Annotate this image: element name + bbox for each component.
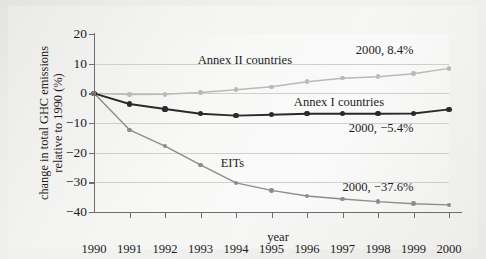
series-label: EITs: [221, 157, 245, 170]
x-tick: [414, 212, 415, 218]
plot-area: Annex II countriesAnnex I countriesEITs …: [94, 34, 449, 212]
series-label: Annex I countries: [294, 96, 384, 109]
data-point: [340, 197, 345, 202]
data-point: [447, 66, 452, 71]
value-annotation: 2000, −37.6%: [342, 181, 413, 194]
y-tick-label: −40: [66, 205, 87, 219]
x-tick: [343, 212, 344, 218]
y-tick-label: −20: [66, 146, 87, 160]
y-tick-label: −30: [66, 176, 87, 190]
x-tick: [201, 212, 202, 218]
x-tick: [130, 212, 131, 218]
x-tick: [307, 212, 308, 218]
x-tick: [378, 212, 379, 218]
x-tick: [449, 212, 450, 218]
data-point: [269, 85, 274, 90]
data-point: [376, 199, 381, 204]
x-axis-line: [94, 212, 462, 213]
series-line: [94, 68, 449, 94]
y-tick-label: 20: [74, 27, 88, 41]
data-point: [411, 71, 416, 76]
data-point: [162, 106, 167, 111]
data-point: [304, 111, 309, 116]
data-point: [127, 101, 132, 106]
x-tick: [165, 212, 166, 218]
data-point: [127, 92, 132, 97]
x-axis-title: year: [94, 230, 462, 245]
data-point: [375, 111, 380, 116]
data-point: [447, 203, 452, 208]
figure-canvas: change in total GHC emissions relative t…: [8, 6, 478, 249]
y-axis-title: change in total GHC emissions relative t…: [35, 34, 69, 212]
value-annotation: 2000, −5.4%: [349, 121, 414, 134]
figure-background: change in total GHC emissions relative t…: [0, 0, 486, 259]
data-point: [269, 188, 274, 193]
data-point: [198, 163, 203, 168]
data-point: [411, 201, 416, 206]
y-tick-label: 0: [80, 87, 87, 101]
y-axis-line: [94, 33, 95, 213]
data-point: [446, 107, 451, 112]
data-point: [198, 90, 203, 95]
data-point: [127, 128, 132, 133]
data-point: [163, 92, 168, 97]
series-label: Annex II countries: [198, 54, 292, 67]
data-point: [233, 113, 238, 118]
x-tick: [272, 212, 273, 218]
x-tick: [236, 212, 237, 218]
value-annotation: 2000, 8.4%: [356, 44, 414, 57]
y-tick-label: −10: [66, 116, 87, 130]
y-tick-label: 10: [74, 57, 88, 71]
